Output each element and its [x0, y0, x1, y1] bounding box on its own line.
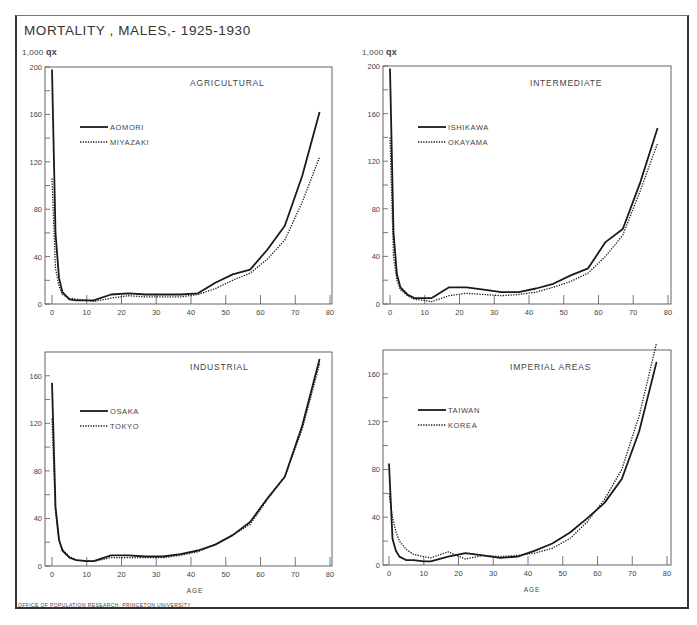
- legend-label: TOKYO: [110, 422, 139, 431]
- y-tick-label: 80: [372, 205, 380, 214]
- y-tick-label: 0: [376, 561, 380, 570]
- x-tick-label: 0: [388, 308, 392, 317]
- y-tick-label: 120: [29, 158, 42, 167]
- y-tick-label: 200: [29, 63, 42, 72]
- x-axis-label: AGE: [187, 587, 204, 594]
- y-tick-label: 80: [34, 205, 42, 214]
- y-tick-label: 40: [372, 252, 380, 261]
- y-tick-label: 120: [29, 419, 42, 428]
- y-tick-label: 160: [29, 372, 42, 381]
- x-tick-label: 50: [222, 308, 230, 317]
- x-tick-label: 60: [256, 570, 264, 579]
- footer-credit: OFFICE OF POPULATION RESEARCH, PRINCETON…: [18, 602, 191, 608]
- y-tick-label: 0: [376, 300, 380, 309]
- x-tick-label: 10: [421, 308, 429, 317]
- panel-title: INTERMEDIATE: [530, 78, 602, 88]
- plot-frame: [45, 352, 332, 566]
- y-tick-label: 160: [29, 110, 42, 119]
- x-tick-label: 80: [326, 308, 334, 317]
- x-axis-label: AGE: [524, 586, 541, 593]
- y-tick-label: 160: [367, 110, 380, 119]
- x-tick-label: 50: [560, 308, 568, 317]
- y-tick-label: 80: [34, 467, 42, 476]
- x-tick-label: 70: [291, 308, 299, 317]
- plot-frame: [45, 67, 332, 304]
- x-tick-label: 70: [291, 570, 299, 579]
- chart-panel-intermediate: 0408012016020001020304050607080INTERMEDI…: [367, 62, 672, 317]
- charts-canvas: 0408012016020001020304050607080AGRICULTU…: [0, 0, 697, 625]
- chart-panel-agricultural: 0408012016020001020304050607080AGRICULTU…: [29, 63, 334, 317]
- x-tick-label: 10: [83, 570, 91, 579]
- legend-label: KOREA: [448, 421, 477, 430]
- x-tick-label: 40: [524, 569, 532, 578]
- series-line-miyazaki: [52, 157, 320, 302]
- chart-panel-imperial-areas: 0408012016001020304050607080AGEIMPERIAL …: [367, 343, 671, 593]
- x-tick-label: 0: [387, 569, 391, 578]
- legend-label: OKAYAMA: [448, 138, 488, 147]
- x-tick-label: 80: [663, 569, 671, 578]
- y-tick-label: 160: [367, 370, 380, 379]
- x-tick-label: 80: [326, 570, 334, 579]
- y-tick-label: 40: [34, 253, 42, 262]
- legend-label: AOMORI: [110, 123, 144, 132]
- y-tick-label: 0: [38, 562, 42, 571]
- panel-title: AGRICULTURAL: [190, 78, 265, 88]
- legend-label: OSAKA: [110, 407, 139, 416]
- x-tick-label: 50: [222, 570, 230, 579]
- series-line-taiwan: [389, 362, 657, 562]
- y-tick-label: 200: [367, 62, 380, 71]
- x-tick-label: 80: [664, 308, 672, 317]
- x-tick-label: 20: [455, 308, 463, 317]
- y-tick-label: 120: [367, 418, 380, 427]
- x-tick-label: 20: [454, 569, 462, 578]
- y-tick-label: 40: [372, 513, 380, 522]
- series-line-okayama: [390, 137, 658, 301]
- x-tick-label: 60: [594, 308, 602, 317]
- chart-panel-industrial: 0408012016001020304050607080AGEINDUSTRIA…: [29, 352, 334, 594]
- series-line-aomori: [52, 69, 320, 300]
- series-line-korea: [389, 343, 657, 559]
- x-tick-label: 0: [50, 308, 54, 317]
- x-tick-label: 20: [117, 308, 125, 317]
- legend-label: MIYAZAKI: [110, 138, 149, 147]
- x-tick-label: 30: [152, 308, 160, 317]
- panel-title: IMPERIAL AREAS: [510, 362, 591, 372]
- series-line-osaka: [52, 359, 320, 561]
- panel-title: INDUSTRIAL: [190, 362, 249, 372]
- plot-frame: [383, 350, 671, 565]
- plot-frame: [383, 66, 671, 304]
- x-tick-label: 60: [593, 569, 601, 578]
- y-tick-label: 80: [372, 465, 380, 474]
- x-tick-label: 50: [559, 569, 567, 578]
- series-line-tokyo: [52, 364, 320, 561]
- x-tick-label: 40: [187, 308, 195, 317]
- x-tick-label: 10: [420, 569, 428, 578]
- y-tick-label: 120: [367, 157, 380, 166]
- x-tick-label: 30: [490, 308, 498, 317]
- x-tick-label: 70: [628, 569, 636, 578]
- x-tick-label: 40: [525, 308, 533, 317]
- x-tick-label: 20: [117, 570, 125, 579]
- x-tick-label: 10: [83, 308, 91, 317]
- y-tick-label: 40: [34, 514, 42, 523]
- legend-label: TAIWAN: [448, 406, 480, 415]
- x-tick-label: 70: [629, 308, 637, 317]
- y-tick-label: 0: [38, 300, 42, 309]
- x-tick-label: 30: [489, 569, 497, 578]
- x-tick-label: 40: [187, 570, 195, 579]
- legend-label: ISHIKAWA: [448, 123, 489, 132]
- series-line-ishikawa: [390, 68, 658, 298]
- x-tick-label: 60: [256, 308, 264, 317]
- x-tick-label: 0: [50, 570, 54, 579]
- x-tick-label: 30: [152, 570, 160, 579]
